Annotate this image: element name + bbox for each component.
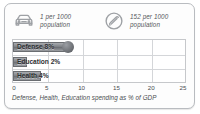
stat-car-line1: 1 per 1000 xyxy=(40,13,71,20)
x-tick-label: 5 xyxy=(45,83,48,92)
x-axis: 0510152025 xyxy=(12,83,186,92)
chart-caption: Defense, Health, Education spending as %… xyxy=(12,93,192,102)
stats-header: 1 per 1000 population 152 per 1000 popul… xyxy=(5,4,194,37)
bar-label-education: Education 2% xyxy=(17,57,60,67)
x-tick-label: 0 xyxy=(12,83,15,92)
infographic-panel: 1 per 1000 population 152 per 1000 popul… xyxy=(0,0,200,114)
stat-telephone-line2: population xyxy=(130,21,168,29)
stat-telephone: 152 per 1000 population xyxy=(101,10,194,32)
stat-telephone-line1: 152 per 1000 xyxy=(130,13,168,20)
telephone-icon xyxy=(103,10,125,32)
stat-telephone-text: 152 per 1000 population xyxy=(130,13,168,28)
stat-car-line2: population xyxy=(40,21,71,29)
bar-label-health: Health 4% xyxy=(17,71,49,81)
bar-label-defense: Defense 8% xyxy=(17,42,54,52)
bar-end-marker xyxy=(62,41,74,53)
x-tick-label: 10 xyxy=(78,83,85,92)
x-tick-label: 15 xyxy=(113,83,120,92)
bar-chart: Defense 8%Education 2%Health 4% xyxy=(12,39,186,83)
bar-row[interactable]: Health 4% xyxy=(13,69,185,83)
car-icon xyxy=(13,10,35,32)
x-tick-label: 20 xyxy=(148,83,155,92)
chart-plot-area: Defense 8%Education 2%Health 4% xyxy=(12,39,186,83)
bar-row[interactable]: Education 2% xyxy=(13,55,185,70)
stat-car-text: 1 per 1000 population xyxy=(40,13,71,28)
stat-car: 1 per 1000 population xyxy=(5,10,101,32)
x-tick-label: 25 xyxy=(180,83,187,92)
bar-row[interactable]: Defense 8% xyxy=(13,40,185,55)
